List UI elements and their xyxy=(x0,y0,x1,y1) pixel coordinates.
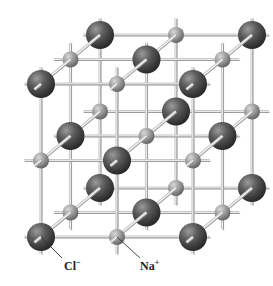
chloride-charge: − xyxy=(76,258,81,267)
nacl-lattice-diagram xyxy=(0,0,273,286)
label-leader-line xyxy=(117,237,140,258)
chloride-symbol: Cl xyxy=(64,259,76,273)
chloride-label: Cl− xyxy=(64,258,81,274)
label-leader-lines xyxy=(41,237,140,258)
sodium-symbol: Na xyxy=(140,259,155,273)
sodium-label: Na+ xyxy=(140,258,159,274)
sodium-charge: + xyxy=(155,258,160,267)
